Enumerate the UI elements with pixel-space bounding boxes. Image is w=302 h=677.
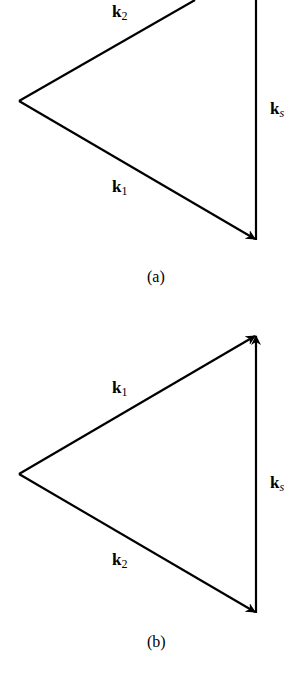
diagram-a [19,0,256,240]
caption-b: (b) [147,633,166,651]
diagram-b [19,336,256,613]
label-ks-a: ks [270,100,284,119]
vector-k1-a [19,101,255,239]
label-sub: 2 [121,557,127,571]
label-k1-a: k1 [112,178,127,197]
label-sub: 1 [121,385,127,399]
label-sub: 1 [121,184,127,198]
label-sub: s [279,106,284,120]
label-ks-b: ks [270,474,284,493]
vector-k1-b [19,336,255,474]
caption-a: (a) [147,268,165,286]
vector-diagram [0,0,302,677]
vector-k2-b [19,474,255,612]
label-sub: 2 [121,9,127,23]
label-k2-b: k2 [112,551,127,570]
label-sub: s [279,480,284,494]
label-k2-a: k2 [112,3,127,22]
label-k1-b: k1 [112,379,127,398]
vector-k2-a [19,0,195,101]
